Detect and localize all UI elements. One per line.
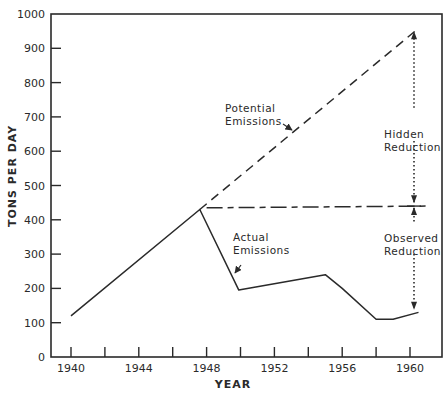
chart-canvas: 01002003004005006007008009001000 1940194… <box>0 0 447 395</box>
y-tick-label: 1000 <box>17 8 45 21</box>
y-tick-label: 700 <box>24 111 45 124</box>
y-tick-label: 100 <box>24 317 45 330</box>
arrow-actual-emissions <box>235 265 241 273</box>
y-tick-label: 400 <box>24 214 45 227</box>
emissions-chart: 01002003004005006007008009001000 1940194… <box>0 0 447 395</box>
x-axis: 194019441948195219561960 <box>57 347 424 375</box>
series-group <box>71 31 427 319</box>
series-actual-emissions <box>71 210 419 320</box>
x-tick-label: 1940 <box>57 362 85 375</box>
annotations: PotentialEmissionsActualEmissionsHiddenR… <box>225 31 441 310</box>
arrowhead-up-icon <box>411 31 417 39</box>
x-axis-title: YEAR <box>214 378 251 391</box>
plot-border <box>51 14 442 357</box>
y-tick-label: 200 <box>24 282 45 295</box>
y-axis: 01002003004005006007008009001000 <box>17 8 61 364</box>
y-axis-title: TONS PER DAY <box>6 125 19 227</box>
y-tick-label: 900 <box>24 42 45 55</box>
x-tick-label: 1960 <box>396 362 424 375</box>
label-actual-emissions: ActualEmissions <box>233 231 290 256</box>
x-tick-label: 1952 <box>260 362 288 375</box>
label-hidden-reduction: HiddenReduction <box>384 128 441 153</box>
y-tick-label: 300 <box>24 248 45 261</box>
series-baseline-1948-level <box>207 206 427 208</box>
x-tick-label: 1948 <box>193 362 221 375</box>
arrowhead-down-icon <box>411 195 417 203</box>
arrow-potential-emissions <box>283 124 292 130</box>
label-potential-emissions: PotentialEmissions <box>225 102 282 127</box>
x-tick-label: 1956 <box>328 362 356 375</box>
plot-frame <box>51 14 442 357</box>
x-tick-label: 1944 <box>125 362 153 375</box>
y-tick-label: 800 <box>24 77 45 90</box>
arrowhead-down-icon <box>411 302 417 310</box>
arrowhead-up-icon <box>411 207 417 215</box>
y-tick-label: 500 <box>24 180 45 193</box>
y-tick-label: 0 <box>38 351 45 364</box>
label-observed-reduction: ObservedReduction <box>384 232 441 257</box>
y-tick-label: 600 <box>24 145 45 158</box>
